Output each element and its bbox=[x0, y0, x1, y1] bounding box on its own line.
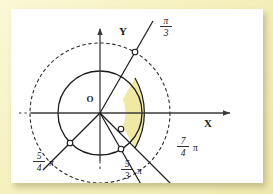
angle-rays-group bbox=[43, 21, 176, 183]
label-pi-over-3: π 3 bbox=[160, 16, 172, 38]
marker-pi-over-3 bbox=[132, 49, 138, 55]
label-five-thirds-pi-numerator: 5 bbox=[125, 159, 130, 169]
label-seven-fourths-pi-trailing: π bbox=[193, 143, 198, 153]
label-pi-over-3-numerator: π bbox=[164, 16, 169, 26]
figure-page: X Y O π 3 5 4 π 5 3 π bbox=[0, 0, 273, 194]
marker-five-thirds-pi-inner bbox=[118, 126, 124, 132]
label-pi-over-3-denominator: 3 bbox=[163, 28, 169, 38]
label-five-thirds-pi: 5 3 π bbox=[121, 159, 142, 181]
x-axis-arrowhead bbox=[223, 110, 230, 115]
origin-label: O bbox=[86, 94, 93, 104]
label-seven-fourths-pi-numerator: 7 bbox=[181, 136, 187, 146]
y-axis-arrowhead bbox=[97, 28, 102, 35]
label-five-thirds-pi-denominator: 3 bbox=[124, 171, 130, 181]
marker-five-thirds-pi-outer bbox=[118, 146, 124, 152]
y-axis-label: Y bbox=[119, 25, 127, 37]
label-five-fourths-pi-denominator: 4 bbox=[37, 163, 42, 173]
label-seven-fourths-pi: 7 4 π bbox=[177, 136, 198, 158]
polar-diagram: X Y O π 3 5 4 π 5 3 π bbox=[11, 9, 263, 183]
label-five-fourths-pi-numerator: 5 bbox=[37, 151, 42, 161]
x-axis-label: X bbox=[204, 117, 212, 129]
label-seven-fourths-pi-denominator: 4 bbox=[181, 148, 186, 158]
label-five-thirds-pi-trailing: π bbox=[137, 166, 142, 176]
label-five-fourths-pi-trailing: π bbox=[49, 158, 54, 168]
figure-panel: X Y O π 3 5 4 π 5 3 π bbox=[11, 9, 263, 183]
marker-five-fourths-pi bbox=[67, 140, 73, 146]
